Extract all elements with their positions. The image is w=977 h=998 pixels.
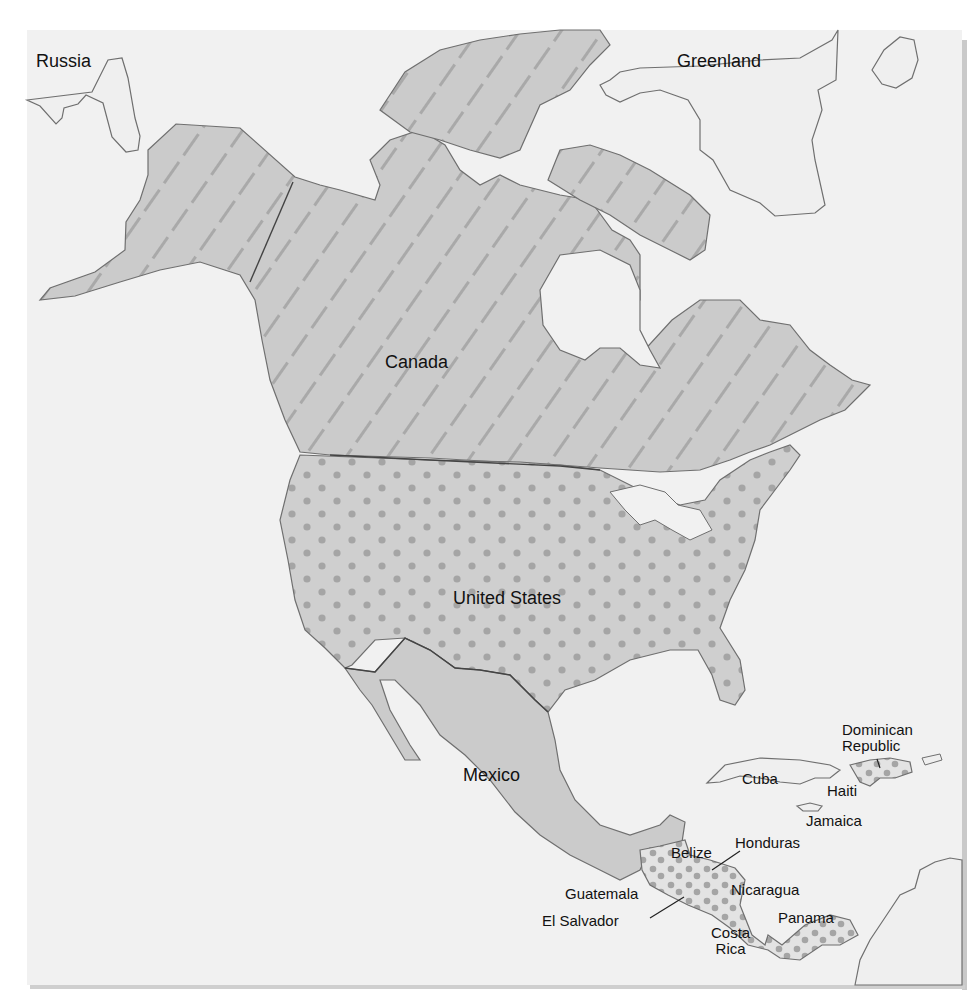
label-mexico: Mexico <box>463 766 520 784</box>
label-haiti: Haiti <box>827 783 857 798</box>
label-honduras: Honduras <box>735 835 800 850</box>
label-dominican-republic: Dominican Republic <box>842 722 913 754</box>
puerto-rico-landmass <box>922 754 942 765</box>
label-united-states: United States <box>453 589 561 607</box>
label-nicaragua: Nicaragua <box>731 882 799 897</box>
map-canvas <box>0 0 977 998</box>
label-jamaica: Jamaica <box>806 813 862 828</box>
label-costa-rica: Costa Rica <box>711 925 750 957</box>
label-belize: Belize <box>671 845 712 860</box>
iceland-landmass <box>872 37 918 88</box>
jamaica-landmass <box>797 803 822 811</box>
south-america-coast <box>855 858 962 985</box>
label-canada: Canada <box>385 353 448 371</box>
label-russia: Russia <box>36 52 91 70</box>
russia-landmass <box>27 58 140 152</box>
label-cuba: Cuba <box>742 771 778 786</box>
label-panama: Panama <box>778 910 834 925</box>
label-greenland: Greenland <box>677 52 761 70</box>
label-guatemala: Guatemala <box>565 886 638 901</box>
hispaniola-landmass <box>850 758 912 786</box>
label-el-salvador: El Salvador <box>542 913 619 928</box>
leader-line-el-salvador <box>650 897 684 918</box>
